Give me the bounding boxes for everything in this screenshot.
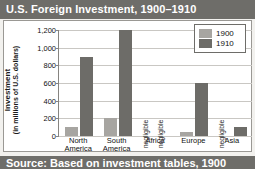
y-tick-mark — [56, 48, 59, 49]
category-label: SouthAmerica — [97, 137, 135, 153]
bar — [65, 127, 78, 136]
source-text: Source: Based on investment tables, 1900 — [6, 157, 226, 169]
chart-panel: Investment (in millions of U.S. dollars)… — [3, 20, 252, 152]
category-label: Africa — [136, 137, 174, 153]
category-label: NorthAmerica — [59, 137, 97, 153]
legend-item-1910: 1910 — [199, 39, 241, 48]
legend-item-1900: 1900 — [199, 29, 241, 38]
figure-title-bar: U.S. Foreign Investment, 1900–1910 — [0, 0, 255, 19]
category-label-line2: America — [97, 145, 135, 153]
y-tick-label: 400 — [43, 96, 56, 105]
y-tick-mark — [56, 30, 59, 31]
y-tick-mark — [56, 65, 59, 66]
bar — [234, 127, 247, 136]
y-tick-mark — [56, 101, 59, 102]
category-label-line2: America — [59, 145, 97, 153]
y-tick-label: 1,200 — [37, 26, 56, 35]
legend-label-1900: 1900 — [216, 29, 234, 38]
y-tick-mark — [56, 83, 59, 84]
source-strip: Source: Based on investment tables, 1900 — [0, 156, 255, 169]
figure-title: U.S. Foreign Investment, 1900–1910 — [6, 3, 196, 15]
bar-group — [60, 30, 98, 136]
category-labels: NorthAmericaSouthAmericaAfricaEuropeAsia — [59, 137, 251, 153]
category-label-line1: Africa — [136, 137, 174, 145]
y-tick-label: 200 — [43, 114, 56, 123]
foreign-investment-figure: U.S. Foreign Investment, 1900–1910 Inves… — [0, 0, 255, 169]
bar-group — [98, 30, 136, 136]
category-label: Asia — [213, 137, 251, 153]
bar-negligible: negligible — [142, 30, 155, 136]
y-tick-label: 800 — [43, 61, 56, 70]
y-tick-mark — [56, 118, 59, 119]
bar — [104, 118, 117, 136]
legend-swatch-1910 — [199, 39, 212, 48]
bar-negligible: negligible — [157, 30, 170, 136]
category-label-line1: Asia — [213, 137, 251, 145]
legend-label-1910: 1910 — [216, 39, 234, 48]
bar — [195, 83, 208, 136]
y-tick-label: 600 — [43, 79, 56, 88]
category-label-line1: Europe — [174, 137, 212, 145]
category-label: Europe — [174, 137, 212, 153]
y-axis-title: Investment (in millions of U.S. dollars) — [5, 39, 19, 139]
y-axis-title-line1: Investment — [4, 40, 12, 140]
y-tick-label: 1,000 — [37, 43, 56, 52]
bar — [80, 57, 93, 137]
bar-group: negligiblenegligible — [137, 30, 175, 136]
bar — [119, 30, 132, 136]
chart-legend: 1900 1910 — [194, 24, 246, 53]
legend-swatch-1900 — [199, 29, 212, 38]
y-axis-title-line2: (in millions of U.S. dollars) — [12, 40, 20, 140]
